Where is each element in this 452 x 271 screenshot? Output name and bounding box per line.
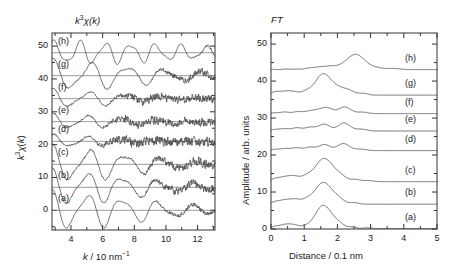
- exafs-curve-label-e: (e): [58, 105, 84, 115]
- figure-root: k3χ(k) k3χ(k) k / 10 nm−1 01020304050468…: [0, 0, 452, 271]
- ft-xtick-0: 0: [259, 233, 283, 243]
- exafs-x-axis-label: k / 10 nm−1: [83, 250, 130, 262]
- ft-ytick-40: 40: [241, 75, 267, 85]
- exafs-curve-label-b: (b): [58, 170, 84, 180]
- exafs-xtick-12: 12: [186, 234, 210, 244]
- ft-xtick-5: 5: [425, 233, 449, 243]
- exafs-ytick-50: 50: [22, 40, 48, 50]
- ft-curve-label-h: (h): [405, 53, 433, 63]
- exafs-curve-label-g: (g): [58, 59, 84, 69]
- exafs-curve-label-h: (h): [58, 36, 84, 46]
- ft-ytick-20: 20: [241, 149, 267, 159]
- exafs-panel-title: k3χ(k): [75, 14, 100, 26]
- exafs-xtick-6: 6: [91, 234, 115, 244]
- exafs-curve-label-a: (a): [58, 193, 84, 203]
- ft-xtick-2: 2: [325, 233, 349, 243]
- ft-xtick-3: 3: [359, 233, 383, 243]
- ft-curve-label-f: (f): [405, 97, 433, 107]
- ft-ytick-30: 30: [241, 112, 267, 122]
- ft-curve-label-c: (c): [405, 165, 433, 175]
- ft-xtick-1: 1: [292, 233, 316, 243]
- exafs-panel: k3χ(k) k3χ(k) k / 10 nm−1 01020304050468…: [0, 0, 226, 271]
- exafs-curve-label-c: (c): [58, 147, 84, 157]
- ft-xtick-4: 4: [392, 233, 416, 243]
- ft-curve-label-d: (d): [405, 134, 433, 144]
- exafs-xtick-8: 8: [122, 234, 146, 244]
- ft-ytick-50: 50: [241, 38, 267, 48]
- exafs-ytick-30: 30: [22, 106, 48, 116]
- ft-curve-label-g: (g): [405, 78, 433, 88]
- ft-curve-label-a: (a): [405, 212, 433, 222]
- ft-curve-label-e: (e): [405, 114, 433, 124]
- exafs-xtick-10: 10: [154, 234, 178, 244]
- ft-x-axis-label: Distance / 0.1 nm: [289, 250, 363, 261]
- exafs-xtick-4: 4: [59, 234, 83, 244]
- exafs-ytick-10: 10: [22, 171, 48, 181]
- ft-ytick-0: 0: [241, 223, 267, 233]
- ft-panel-title: FT: [271, 14, 283, 25]
- exafs-ytick-40: 40: [22, 73, 48, 83]
- ft-curve-label-b: (b): [405, 187, 433, 197]
- exafs-curve-label-d: (d): [58, 124, 84, 134]
- exafs-curve-label-f: (f): [58, 82, 84, 92]
- ft-ytick-10: 10: [241, 186, 267, 196]
- ft-panel: FT Amplitude / arb. units Distance / 0.1…: [226, 0, 452, 271]
- exafs-ytick-20: 20: [22, 139, 48, 149]
- exafs-ytick-0: 0: [22, 204, 48, 214]
